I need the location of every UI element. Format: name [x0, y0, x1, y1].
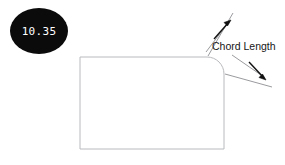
- chord-dimension-line-lower: [232, 55, 261, 75]
- arrow-down-right-icon: [249, 62, 266, 80]
- radius-value-badge: 10.35: [10, 8, 68, 54]
- leader-line-lower: [225, 74, 272, 87]
- rounded-rectangle-profile: [80, 57, 224, 149]
- chord-length-label: Chord Length: [212, 41, 276, 52]
- radius-value-text: 10.35: [22, 26, 57, 37]
- diagram-canvas: 10.35 Chord Length: [0, 0, 285, 165]
- arrow-up-right-icon: [214, 20, 231, 39]
